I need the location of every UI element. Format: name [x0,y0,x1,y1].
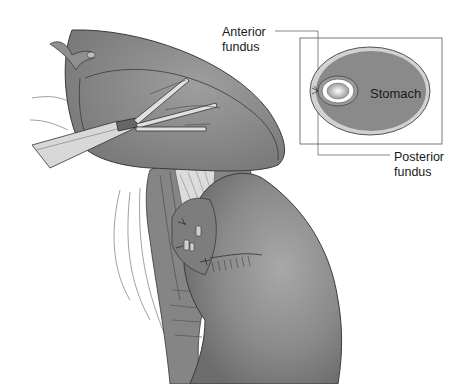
anterior-fundus-label: Anterior fundus [222,25,266,55]
fundoplication-illustration [0,0,471,384]
posterior-fundus-label: Posterior fundus [394,150,444,180]
stomach-label: Stomach [370,86,421,101]
